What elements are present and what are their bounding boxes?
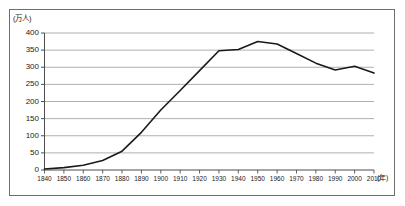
- y-tick-label: 350: [13, 46, 39, 54]
- y-tick-label: 250: [13, 80, 39, 88]
- x-tick-label: 2010: [363, 175, 385, 182]
- y-tick-label: 100: [13, 132, 39, 140]
- y-tick-label: 400: [13, 29, 39, 37]
- y-tick-label: 300: [13, 63, 39, 71]
- chart-figure: (万人) (年) 050100150200250300350400 184018…: [0, 0, 405, 206]
- y-tick-label: 0: [13, 166, 39, 174]
- gridlines-group: [45, 33, 375, 153]
- data-series-line: [45, 42, 375, 169]
- y-tick-label: 150: [13, 115, 39, 123]
- x-tick-marks-group: [45, 170, 375, 174]
- y-tick-label: 50: [13, 149, 39, 157]
- y-tick-label: 200: [13, 98, 39, 106]
